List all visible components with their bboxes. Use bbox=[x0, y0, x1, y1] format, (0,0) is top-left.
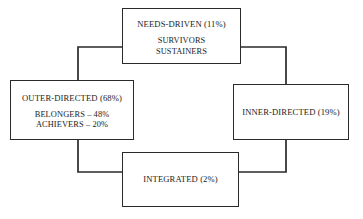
connector-needs-to-outer bbox=[78, 47, 122, 80]
node-outer-directed[interactable]: OUTER-DIRECTED (68%) BELONGERS – 48% ACH… bbox=[10, 80, 134, 140]
connector-needs-to-inner bbox=[241, 47, 286, 84]
node-inner-directed-title: INNER-DIRECTED (19%) bbox=[242, 107, 340, 117]
node-outer-directed-sub-1: BELONGERS – 48% bbox=[35, 110, 110, 120]
node-outer-directed-subitems: BELONGERS – 48% ACHIEVERS – 20% bbox=[35, 110, 110, 130]
node-outer-directed-title: OUTER-DIRECTED (68%) bbox=[22, 93, 122, 103]
node-integrated-title: INTEGRATED (2%) bbox=[143, 174, 218, 184]
node-needs-driven-subitems: SURVIVORS SUSTAINERS bbox=[156, 36, 207, 56]
node-integrated[interactable]: INTEGRATED (2%) bbox=[122, 152, 239, 207]
connector-outer-to-integrated bbox=[78, 140, 122, 172]
node-needs-driven[interactable]: NEEDS-DRIVEN (11%) SURVIVORS SUSTAINERS bbox=[122, 8, 241, 64]
node-needs-driven-title: NEEDS-DRIVEN (11%) bbox=[137, 19, 225, 29]
diagram-canvas: NEEDS-DRIVEN (11%) SURVIVORS SUSTAINERS … bbox=[0, 0, 363, 219]
node-needs-driven-sub-1: SURVIVORS bbox=[158, 36, 206, 46]
node-outer-directed-sub-2: ACHIEVERS – 20% bbox=[36, 120, 108, 130]
node-inner-directed[interactable]: INNER-DIRECTED (19%) bbox=[233, 84, 349, 140]
connector-integrated-to-inner bbox=[239, 140, 286, 172]
node-needs-driven-sub-2: SUSTAINERS bbox=[156, 47, 207, 57]
